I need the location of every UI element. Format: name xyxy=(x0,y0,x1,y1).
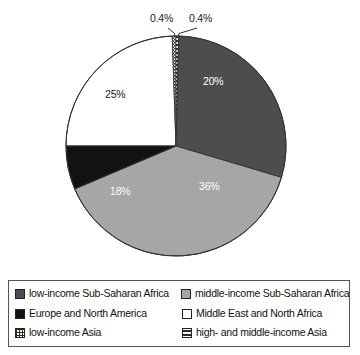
callout-leader-line-right xyxy=(178,28,197,36)
legend-row: Europe and North America Middle East and… xyxy=(9,304,349,324)
callout-label-high-and-middle-income-asia: 0.4% xyxy=(189,12,212,24)
legend-item-low-income-asia: low-income Asia xyxy=(9,327,180,339)
mid-gray-swatch-icon xyxy=(181,289,191,299)
legend-row: low-income Asia high- and middle-income … xyxy=(9,323,349,343)
legend-label: Middle East and North Africa xyxy=(196,308,322,320)
black-swatch-icon xyxy=(15,309,25,319)
pie-chart-figure: 0.4% 0.4% 20% 36% 18% 25% low-income Sub… xyxy=(0,0,360,355)
striped-swatch-icon xyxy=(182,328,192,338)
legend-label: Europe and North America xyxy=(29,308,147,320)
chart-legend: low-income Sub-Saharan Africa middle-inc… xyxy=(8,280,350,347)
legend-item-middle-east-and-north-africa: Middle East and North Africa xyxy=(180,308,349,320)
legend-item-low-income-sub-saharan-africa: low-income Sub-Saharan Africa xyxy=(9,288,179,300)
legend-item-europe-and-north-america: Europe and North America xyxy=(9,308,180,320)
pie-chart-area: 0.4% 0.4% 20% 36% 18% 25% xyxy=(0,0,360,275)
legend-label: high- and middle-income Asia xyxy=(196,327,327,339)
legend-row: low-income Sub-Saharan Africa middle-inc… xyxy=(9,284,349,304)
legend-label: low-income Sub-Saharan Africa xyxy=(29,288,169,300)
legend-label: middle-income Sub-Saharan Africa xyxy=(195,288,349,300)
checkered-swatch-icon xyxy=(15,328,25,338)
white-swatch-icon xyxy=(182,309,192,319)
legend-item-high-and-middle-income-asia: high- and middle-income Asia xyxy=(180,327,349,339)
legend-label: low-income Asia xyxy=(29,327,101,339)
legend-item-middle-income-sub-saharan-africa: middle-income Sub-Saharan Africa xyxy=(179,288,349,300)
slice-value-middle-east-and-north-africa: 25% xyxy=(105,88,125,100)
slice-value-low-income-sub-saharan-africa: 20% xyxy=(203,75,223,87)
slice-value-europe-and-north-america: 18% xyxy=(110,185,130,197)
pie-svg xyxy=(0,0,360,275)
callout-leader-line-left xyxy=(168,28,175,36)
callout-label-low-income-asia: 0.4% xyxy=(150,12,173,24)
dark-gray-swatch-icon xyxy=(15,289,25,299)
slice-value-middle-income-sub-saharan-africa: 36% xyxy=(199,180,219,192)
